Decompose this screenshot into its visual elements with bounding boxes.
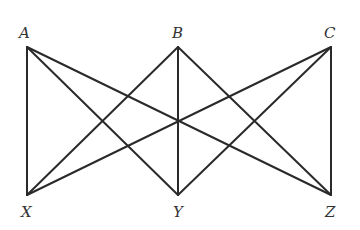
edges-group <box>27 47 331 195</box>
vertex-label-a: A <box>17 24 30 42</box>
vertex-label-c: C <box>324 24 336 42</box>
vertex-label-x: X <box>20 203 33 221</box>
vertex-label-y: Y <box>173 203 185 221</box>
vertex-label-z: Z <box>324 203 336 221</box>
graph-diagram: A B C X Y Z <box>0 0 360 230</box>
vertex-label-b: B <box>171 24 183 42</box>
